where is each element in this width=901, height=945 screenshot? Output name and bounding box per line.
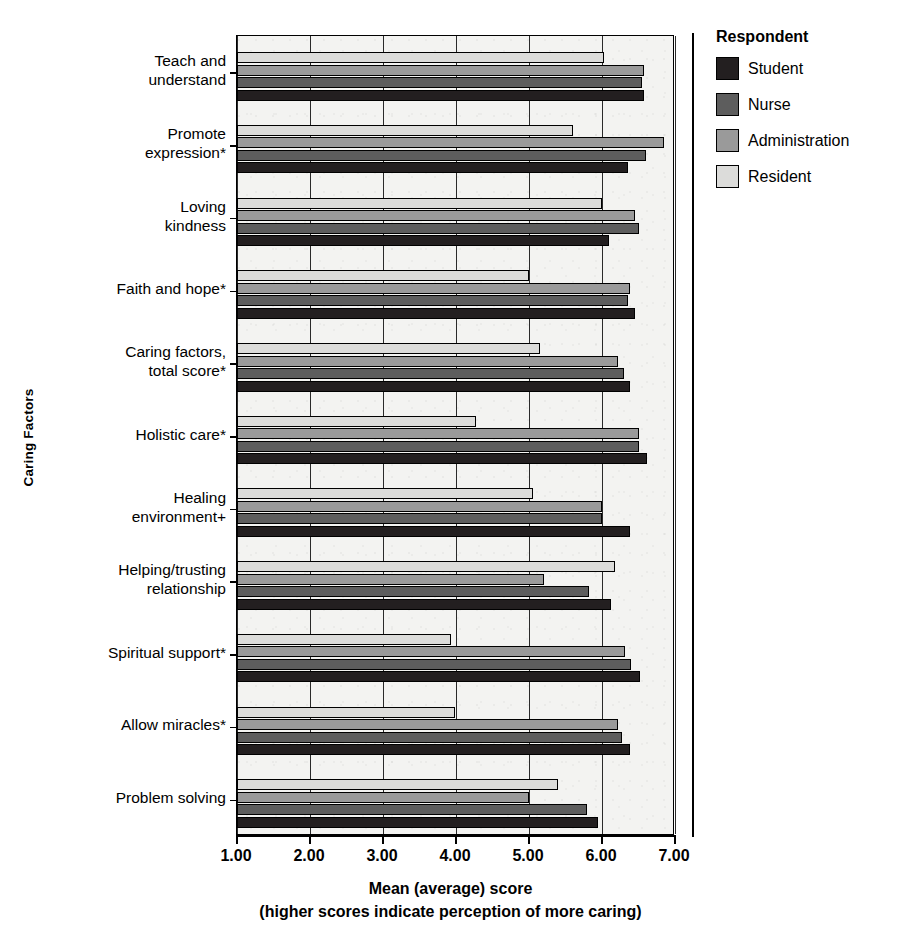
category-label-line: Caring factors,	[40, 342, 226, 361]
x-axis-tick-label: 1.00	[208, 847, 264, 865]
legend-entry-label: Nurse	[748, 96, 791, 114]
y-axis-category-label: Lovingkindness	[40, 197, 226, 235]
bar	[237, 356, 618, 367]
bar	[237, 381, 630, 392]
bar	[237, 77, 642, 88]
bar	[237, 368, 624, 379]
x-axis-tick-label: 2.00	[281, 847, 337, 865]
y-axis-tick	[230, 727, 237, 729]
y-axis-category-labels: Teach andunderstandPromoteexpression*Lov…	[40, 35, 230, 835]
category-label-line: Faith and hope*	[40, 279, 226, 298]
y-axis-tick	[230, 654, 237, 656]
bar	[237, 744, 630, 755]
category-label-line: environment+	[40, 507, 226, 526]
y-axis-category-label: Promoteexpression*	[40, 124, 226, 162]
bar	[237, 561, 615, 572]
category-label-line: understand	[40, 70, 226, 89]
x-axis-line	[236, 835, 674, 837]
category-label-line: Healing	[40, 488, 226, 507]
y-axis-category-label: Helping/trustingrelationship	[40, 560, 226, 598]
legend-entry-label: Resident	[748, 168, 811, 186]
bar	[237, 441, 639, 452]
y-axis-category-label: Spiritual support*	[40, 643, 226, 662]
legend-entry: Nurse	[716, 93, 896, 116]
bar	[237, 634, 451, 645]
y-axis-tick	[230, 581, 237, 583]
y-axis-category-label: Problem solving	[40, 788, 226, 807]
bar	[237, 428, 639, 439]
bar	[237, 526, 630, 537]
y-axis-tick	[230, 145, 237, 147]
right-spine	[692, 33, 694, 837]
category-label-line: Allow miracles*	[40, 715, 226, 734]
bar	[237, 283, 630, 294]
legend-swatch	[716, 57, 739, 80]
legend-entry-label: Student	[748, 60, 803, 78]
bar	[237, 90, 644, 101]
category-label-line: Promote	[40, 124, 226, 143]
bar	[237, 513, 602, 524]
category-label-line: total score*	[40, 361, 226, 380]
bar	[237, 162, 628, 173]
y-axis-category-label: Caring factors,total score*	[40, 342, 226, 380]
category-label-line: Teach and	[40, 51, 226, 70]
category-label-line: Spiritual support*	[40, 643, 226, 662]
x-axis-tick-label: 4.00	[427, 847, 483, 865]
bar	[237, 501, 602, 512]
bar	[237, 574, 544, 585]
gridline	[675, 36, 676, 834]
bar	[237, 223, 639, 234]
bar	[237, 732, 622, 743]
y-axis-tick	[230, 509, 237, 511]
bar	[237, 270, 529, 281]
bar	[237, 599, 611, 610]
bar	[237, 586, 589, 597]
y-axis-title: Caring Factors	[21, 358, 36, 518]
bar	[237, 671, 640, 682]
y-axis-category-label: Faith and hope*	[40, 279, 226, 298]
bar	[237, 792, 529, 803]
category-label-line: relationship	[40, 579, 226, 598]
bar	[237, 779, 558, 790]
bar	[237, 150, 646, 161]
legend-swatch	[716, 93, 739, 116]
x-axis-tick-label: 5.00	[500, 847, 556, 865]
category-label-line: Loving	[40, 197, 226, 216]
y-axis-category-label: Allow miracles*	[40, 715, 226, 734]
legend-entry-label: Administration	[748, 132, 849, 150]
x-axis-subtitle: (higher scores indicate perception of mo…	[0, 900, 901, 923]
legend-entries: StudentNurseAdministrationResident	[716, 57, 896, 188]
legend-title: Respondent	[716, 28, 896, 46]
category-label-line: Holistic care*	[40, 425, 226, 444]
plot-area	[236, 35, 674, 835]
y-axis-tick	[230, 800, 237, 802]
legend-entry: Administration	[716, 129, 896, 152]
bar-chart-figure: Caring Factors Teach andunderstandPromot…	[0, 0, 901, 945]
bar	[237, 210, 635, 221]
y-axis-tick	[230, 363, 237, 365]
bar	[237, 65, 644, 76]
legend-entry: Resident	[716, 165, 896, 188]
bar	[237, 343, 540, 354]
category-label-line: kindness	[40, 216, 226, 235]
legend-entry: Student	[716, 57, 896, 80]
y-axis-category-label: Teach andunderstand	[40, 51, 226, 89]
bar	[237, 198, 602, 209]
x-axis-tick-label: 6.00	[573, 847, 629, 865]
y-axis-tick	[230, 436, 237, 438]
x-axis-title: Mean (average) score	[0, 877, 901, 900]
bar	[237, 646, 625, 657]
bar	[237, 137, 664, 148]
bar	[237, 707, 455, 718]
bar	[237, 804, 587, 815]
y-axis-tick	[230, 72, 237, 74]
bar	[237, 453, 647, 464]
legend-swatch	[716, 129, 739, 152]
x-axis-tick-label: 3.00	[354, 847, 410, 865]
y-axis-category-label: Holistic care*	[40, 425, 226, 444]
category-label-line: expression*	[40, 143, 226, 162]
legend: Respondent StudentNurseAdministrationRes…	[716, 28, 896, 201]
bar	[237, 659, 631, 670]
bar	[237, 52, 604, 63]
legend-swatch	[716, 165, 739, 188]
